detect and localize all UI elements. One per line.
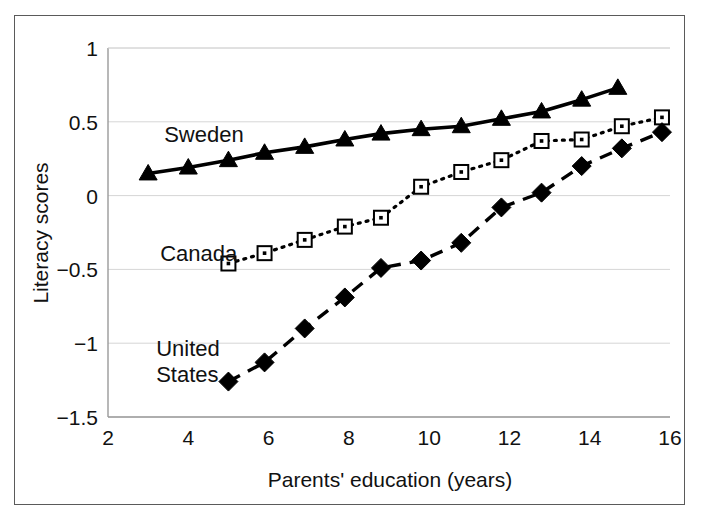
y-tick-label: 0 [86, 185, 98, 208]
series-label-united-states: United [156, 336, 220, 361]
chart-canvas: 10.50−0.5−1−1.5 246810121416 SwedenCanad… [0, 0, 702, 527]
marker-square-center [620, 124, 624, 128]
series-line [228, 132, 662, 381]
y-tick-label: 1 [86, 37, 98, 60]
marker-diamond [295, 319, 314, 338]
marker-square-center [343, 225, 347, 229]
x-tick-label: 2 [102, 426, 114, 449]
marker-square-center [660, 116, 664, 120]
marker-diamond [612, 139, 631, 158]
figure-container: 10.50−0.5−1−1.5 246810121416 SwedenCanad… [0, 0, 702, 527]
marker-diamond [532, 183, 551, 202]
y-tick-label: −1 [74, 332, 98, 355]
x-tick-label: 10 [417, 426, 440, 449]
marker-diamond [652, 123, 671, 142]
marker-diamond [452, 233, 471, 252]
marker-square-center [459, 170, 463, 174]
marker-square-center [500, 158, 504, 162]
x-tick-label: 12 [498, 426, 521, 449]
series-label-united-states-line2: States [156, 362, 218, 387]
marker-diamond [412, 251, 431, 270]
marker-square-center [540, 139, 544, 143]
y-tick-label: −0.5 [57, 258, 98, 281]
series-canada [221, 110, 669, 270]
x-tick-label: 8 [343, 426, 355, 449]
x-tick-label: 6 [263, 426, 275, 449]
y-tick-labels: 10.50−0.5−1−1.5 [57, 37, 98, 429]
marker-diamond [219, 372, 238, 391]
marker-square-center [580, 138, 584, 142]
marker-triangle [609, 79, 627, 94]
marker-square-center [263, 251, 267, 255]
marker-square-center [419, 185, 423, 189]
y-tick-label: −1.5 [57, 406, 98, 429]
marker-square-center [303, 238, 307, 242]
series-label-canada: Canada [160, 241, 238, 266]
marker-square-center [379, 216, 383, 220]
x-tick-label: 14 [578, 426, 602, 449]
x-tick-labels: 246810121416 [102, 426, 682, 449]
x-tick-label: 4 [182, 426, 194, 449]
series-label-sweden: Sweden [164, 122, 244, 147]
x-tick-label: 16 [658, 426, 681, 449]
y-axis-title: Literacy scores [29, 162, 52, 303]
marker-diamond [572, 157, 591, 176]
x-axis-title: Parents' education (years) [268, 468, 512, 491]
series-line [228, 117, 662, 263]
y-tick-label: 0.5 [69, 111, 98, 134]
series-united-states [219, 123, 672, 391]
